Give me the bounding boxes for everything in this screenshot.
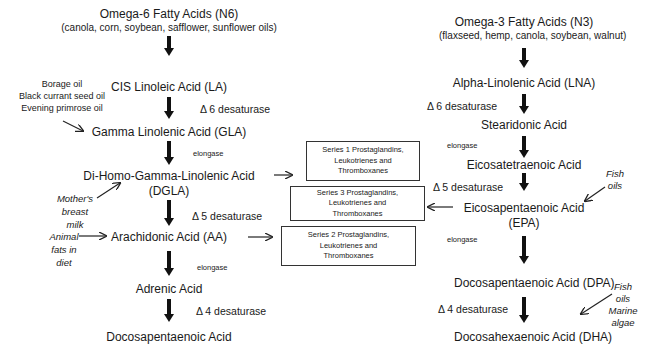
- omega3-sources: (flaxseed, hemp, canola, soybean, walnut…: [439, 30, 609, 41]
- n6-delta5-desaturase-label: Δ 5 desaturase: [192, 210, 262, 222]
- lna-node: Alpha-Linolenic Acid (LNA): [444, 76, 604, 90]
- n3-elongase-label-2: elongase: [447, 235, 477, 244]
- omega6-title: Omega-6 Fatty Acids (N6): [69, 7, 269, 21]
- n6-elongase-label-2: elongase: [197, 263, 227, 272]
- n3-elongase-label-1: elongase: [447, 141, 477, 150]
- n3-delta5-desaturase-label: Δ 5 desaturase: [433, 181, 503, 193]
- dgla-node-abbrev: (DGLA): [139, 184, 199, 198]
- dgla-node: Di-Homo-Gamma-Linolenic Acid: [79, 169, 259, 183]
- n6-dpa-node: Docosapentaenoic Acid: [89, 330, 249, 344]
- epa-source-fish-oils: Fish oils: [600, 168, 630, 192]
- dha-node: Docosahexaenoic Acid (DHA): [454, 330, 594, 344]
- series2-eicosanoids-box: Series 2 Prostaglandins, Leukotrienes an…: [281, 226, 416, 266]
- n6-delta6-desaturase-label: Δ 6 desaturase: [200, 103, 270, 115]
- n6-elongase-label-1: elongase: [193, 149, 223, 158]
- gla-dietary-sources: Borage oil Black currant seed oil Evenin…: [14, 78, 110, 114]
- stearidonic-acid-node: Stearidonic Acid: [469, 118, 579, 132]
- series1-eicosanoids-box: Series 1 Prostaglandins, Leukotrienes an…: [306, 141, 420, 181]
- la-node: CIS Linoleic Acid (LA): [89, 80, 249, 94]
- dha-source-fish-oils-algae: Fish oils Marine algae: [605, 281, 641, 329]
- n3-delta6-desaturase-label: Δ 6 desaturase: [427, 100, 497, 112]
- n6-delta4-desaturase-label: Δ 4 desaturase: [196, 305, 266, 317]
- dgla-source-breast-milk: Mother's breast milk: [50, 192, 100, 231]
- n3-delta4-desaturase-label: Δ 4 desaturase: [438, 303, 508, 315]
- series3-eicosanoids-box: Series 3 Prostaglandins, Leukotrienes an…: [290, 186, 425, 221]
- adrenic-acid-node: Adrenic Acid: [119, 282, 219, 296]
- dpa-node: Docosapentaenoic Acid (DPA): [454, 276, 594, 290]
- eicosatetraenoic-acid-node: Eicosatetraenoic Acid: [464, 158, 584, 172]
- gla-node: Gamma Linolenic Acid (GLA): [79, 125, 259, 139]
- epa-node: Eicosapentaenoic Acid: [459, 201, 589, 215]
- aa-source-animal-fats: Animal fats in diet: [44, 230, 84, 269]
- epa-node-abbrev: (EPA): [504, 216, 544, 230]
- aa-node: Arachidonic Acid (AA): [99, 230, 239, 244]
- omega3-title: Omega-3 Fatty Acids (N3): [454, 15, 594, 29]
- omega6-sources: (canola, corn, soybean, safflower, sunfl…: [49, 22, 289, 33]
